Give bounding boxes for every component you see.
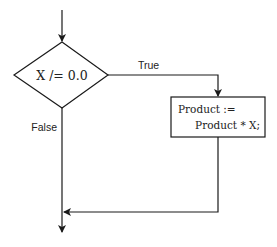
process-line-1: Product := bbox=[178, 103, 236, 115]
process-line-2: Product * X; bbox=[195, 119, 260, 131]
true-label: True bbox=[138, 59, 159, 71]
false-label: False bbox=[31, 121, 57, 133]
true-branch-line bbox=[108, 75, 218, 96]
merge-line bbox=[64, 137, 218, 212]
flowchart-diagram: X /= 0.0 True Product := Product * X; Fa… bbox=[0, 0, 277, 247]
decision-condition: X /= 0.0 bbox=[36, 68, 87, 83]
